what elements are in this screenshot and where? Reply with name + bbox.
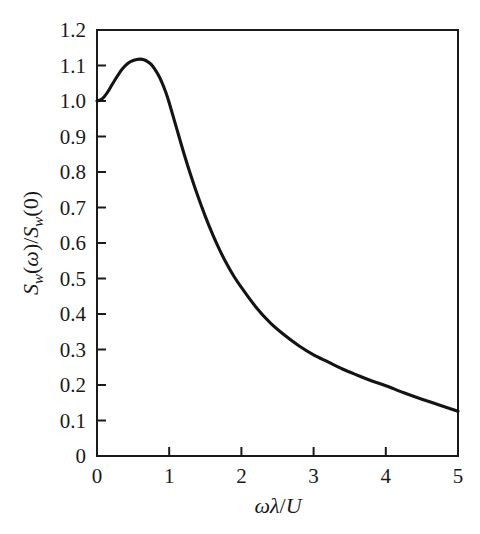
y-axis-title-zero: 0 [18, 198, 43, 209]
y-axis-title-s1: S [18, 284, 43, 295]
x-tick-label: 4 [381, 464, 392, 488]
y-axis-title-s2: S [18, 227, 43, 238]
y-tick-label: 0.9 [60, 125, 86, 149]
y-tick-label: 0.2 [60, 373, 86, 397]
y-axis-tick-labels: 00.10.20.30.40.50.60.70.80.91.01.11.2 [60, 18, 87, 468]
spectrum-line-chart: 00.10.20.30.40.50.60.70.80.91.01.11.2 01… [0, 0, 480, 534]
y-tick-label: 0.1 [60, 409, 86, 433]
x-tick-label: 0 [92, 464, 103, 488]
svg-text:Sw(ω)/Sw(0): Sw(ω)/Sw(0) [18, 191, 46, 295]
data-curve-normalized-spectrum [97, 59, 458, 411]
x-axis-ticks [169, 447, 386, 456]
y-tick-label: 1.2 [60, 18, 86, 42]
y-tick-label: 0.7 [60, 196, 86, 220]
y-tick-label: 1.0 [60, 89, 86, 113]
y-axis-title-close1: ) [18, 244, 43, 251]
y-tick-label: 0.6 [60, 231, 86, 255]
figure-container: 00.10.20.30.40.50.60.70.80.91.01.11.2 01… [0, 0, 480, 534]
y-axis-title-omega: ω [18, 251, 43, 267]
y-axis-title-open1: ( [18, 267, 43, 274]
svg-text:ωλ/U: ωλ/U [254, 493, 303, 518]
x-axis-title-lambda: λ [269, 493, 280, 518]
x-tick-label: 5 [453, 464, 464, 488]
y-axis-title: Sw(ω)/Sw(0) [18, 191, 46, 295]
x-axis-title: ωλ/U [254, 493, 303, 518]
x-tick-label: 2 [236, 464, 247, 488]
x-axis-title-omega: ω [254, 493, 270, 518]
y-axis-title-close2: ) [18, 191, 43, 198]
y-axis-ticks [97, 66, 106, 421]
x-axis-title-u: U [286, 493, 304, 518]
y-axis-title-sub1: w [30, 274, 46, 284]
y-tick-label: 0.4 [60, 302, 87, 326]
x-tick-label: 1 [164, 464, 175, 488]
x-tick-label: 3 [308, 464, 319, 488]
y-axis-title-sub2: w [30, 217, 46, 227]
y-tick-label: 1.1 [60, 54, 86, 78]
y-tick-label: 0.8 [60, 160, 86, 184]
y-tick-label: 0.3 [60, 338, 86, 362]
y-axis-title-open2: ( [18, 209, 43, 216]
x-axis-tick-labels: 012345 [92, 464, 464, 488]
y-tick-label: 0.5 [60, 267, 86, 291]
y-tick-label: 0 [76, 444, 87, 468]
